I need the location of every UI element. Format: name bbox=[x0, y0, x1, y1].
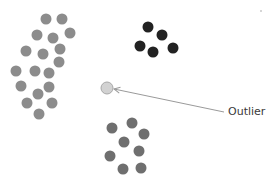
cluster-diagram: Outlier bbox=[0, 0, 279, 185]
data-point bbox=[157, 30, 168, 41]
data-point bbox=[134, 146, 145, 157]
data-point bbox=[48, 33, 59, 44]
data-point bbox=[118, 164, 129, 175]
data-point bbox=[34, 109, 45, 120]
data-point bbox=[119, 137, 130, 148]
data-point bbox=[11, 66, 22, 77]
data-point bbox=[30, 66, 41, 77]
data-point bbox=[65, 28, 76, 39]
data-point bbox=[136, 163, 147, 174]
data-point bbox=[22, 98, 33, 109]
data-point bbox=[47, 98, 58, 109]
speck bbox=[260, 10, 262, 12]
data-point bbox=[135, 41, 146, 52]
data-point bbox=[139, 129, 150, 140]
data-point bbox=[143, 22, 154, 33]
data-point bbox=[57, 14, 68, 25]
dark-cluster bbox=[135, 22, 179, 58]
bottom-cluster bbox=[105, 118, 150, 175]
data-point bbox=[44, 82, 55, 93]
data-point bbox=[21, 46, 32, 57]
left-cluster bbox=[11, 14, 76, 120]
data-point bbox=[41, 14, 52, 25]
data-point bbox=[33, 89, 44, 100]
data-point bbox=[44, 68, 55, 79]
diagram-svg bbox=[0, 0, 279, 185]
data-point bbox=[148, 47, 159, 58]
data-point bbox=[55, 44, 66, 55]
data-point bbox=[127, 118, 138, 129]
data-point bbox=[38, 49, 49, 60]
data-point bbox=[168, 43, 179, 54]
data-point bbox=[16, 81, 27, 92]
outlier-arrow bbox=[114, 89, 224, 112]
clusters-group bbox=[11, 14, 179, 175]
data-point bbox=[54, 57, 65, 68]
outlier-point bbox=[101, 82, 113, 94]
data-point bbox=[107, 123, 118, 134]
outlier-label: Outlier bbox=[228, 106, 265, 117]
data-point bbox=[105, 151, 116, 162]
data-point bbox=[32, 30, 43, 41]
